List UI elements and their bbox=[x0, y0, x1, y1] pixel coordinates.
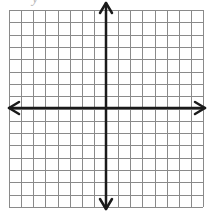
axes bbox=[9, 3, 205, 209]
coordinate-plane bbox=[0, 0, 207, 212]
